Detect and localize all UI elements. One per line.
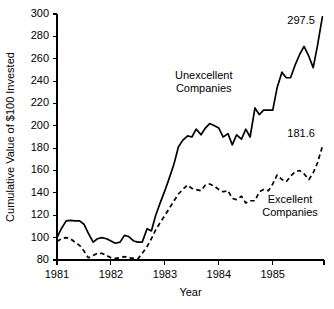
line-chart: 80100120140160180200220240260280300 1981… [0,0,334,309]
x-tick-label: 1983 [153,268,177,280]
y-tick-label: 300 [31,7,49,19]
y-axis-tick-labels: 80100120140160180200220240260280300 [31,7,49,265]
unexcellent-label: UnexcellentCompanies [175,69,232,94]
y-tick-label: 280 [31,29,49,41]
x-axis-ticks [57,260,324,265]
x-tick-label: 1985 [261,268,285,280]
y-axis-ticks [53,14,57,260]
y-axis-title: Cumulative Value of $100 Invested [4,52,16,222]
y-tick-label: 140 [31,186,49,198]
y-tick-label: 120 [31,208,49,220]
x-axis-title: Year [179,286,202,298]
y-tick-label: 220 [31,96,49,108]
chart-annotations: UnexcellentCompaniesExcellentCompanies29… [175,14,318,218]
excellent-end-value: 181.6 [287,127,315,139]
y-tick-label: 100 [31,231,49,243]
x-axis-tick-labels: 19811982198319841985 [45,268,285,280]
x-tick-label: 1981 [45,268,69,280]
y-tick-label: 200 [31,119,49,131]
x-tick-label: 1984 [207,268,231,280]
y-tick-label: 80 [37,253,49,265]
y-tick-label: 260 [31,52,49,64]
y-tick-label: 240 [31,74,49,86]
x-tick-label: 1982 [99,268,123,280]
unexcellent-end-value: 297.5 [287,14,315,26]
y-tick-label: 180 [31,141,49,153]
chart-container: 80100120140160180200220240260280300 1981… [0,0,334,309]
excellent-label: ExcellentCompanies [262,193,318,218]
y-tick-label: 160 [31,163,49,175]
